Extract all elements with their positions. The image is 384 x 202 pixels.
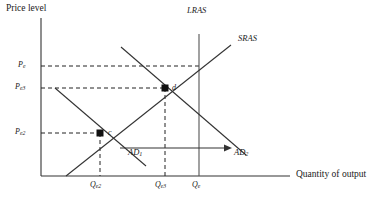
curve-label-ad1: AD1: [128, 148, 142, 157]
curve-ad1-base: AD: [128, 147, 139, 157]
x-tick-label-qe: Qe: [192, 181, 200, 190]
curve-sras: [66, 45, 231, 176]
x-tick-label-qe2: Qe2: [90, 181, 101, 190]
equilibrium-point-d-marker: [162, 85, 169, 92]
x-tick-qe2-sub: e2: [96, 183, 101, 189]
as-ad-diagram: Price level Quantity of output Pe Pe3 Pe…: [0, 0, 384, 202]
y-axis-title: Price level: [6, 4, 46, 14]
point-label-d: d: [172, 84, 176, 92]
shift-arrow-head: [224, 145, 232, 152]
y-tick-pe-sub: e: [23, 63, 26, 69]
x-tick-qe3-sub: e3: [161, 183, 166, 189]
curve-ad2: [121, 47, 246, 155]
curve-ad2-base: AD: [234, 147, 245, 157]
point-label-c: c: [108, 129, 112, 137]
curve-label-sras: SRAS: [238, 34, 257, 43]
curve-ad1-sub: 1: [139, 151, 142, 157]
curve-ad2-sub: 2: [245, 151, 248, 157]
y-tick-label-pe3: Pe3: [15, 83, 25, 92]
curve-label-ad2: AD2: [234, 148, 248, 157]
x-tick-label-qe3: Qe3: [155, 181, 166, 190]
x-tick-qe-sub: e: [198, 183, 201, 189]
curve-label-lras: LRAS: [187, 6, 206, 15]
y-tick-pe3-sub: e3: [20, 85, 25, 91]
y-tick-pe2-sub: e2: [20, 130, 25, 136]
equilibrium-point-c-marker: [97, 130, 104, 137]
y-tick-label-pe2: Pe2: [15, 128, 25, 137]
x-axis-title: Quantity of output: [296, 170, 366, 180]
y-tick-label-pe: Pe: [18, 61, 25, 70]
